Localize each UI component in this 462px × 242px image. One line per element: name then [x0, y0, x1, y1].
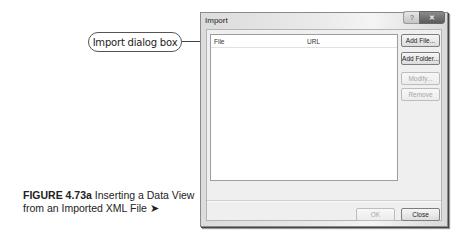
- add-file-button[interactable]: Add File...: [401, 34, 440, 47]
- column-header-url[interactable]: URL: [307, 38, 320, 45]
- arrow-icon: ➤: [150, 202, 159, 214]
- help-button[interactable]: ?: [403, 11, 420, 24]
- window-close-button[interactable]: ✕: [419, 11, 445, 24]
- dialog-body: File URL Add File... Add Folder... Modif…: [206, 29, 442, 221]
- close-button[interactable]: Close: [401, 208, 440, 221]
- close-icon: ✕: [429, 14, 435, 21]
- add-folder-button[interactable]: Add Folder...: [401, 52, 440, 65]
- import-dialog: Import ? ✕ File URL Add File... Add Fold…: [200, 12, 448, 227]
- footer-separator: [207, 200, 441, 202]
- modify-button[interactable]: Modify...: [401, 72, 440, 85]
- remove-button[interactable]: Remove: [401, 88, 440, 101]
- ok-button[interactable]: OK: [356, 208, 395, 221]
- figure-number: FIGURE 4.73a: [23, 189, 92, 201]
- callout-bubble: Import dialog box: [88, 32, 182, 52]
- dialog-title: Import: [205, 16, 228, 25]
- list-header: File URL: [211, 35, 397, 48]
- figure-caption: FIGURE 4.73a Inserting a Data View from …: [23, 189, 203, 215]
- help-icon: ?: [410, 14, 414, 21]
- title-bar[interactable]: Import ? ✕: [201, 13, 447, 29]
- import-file-list[interactable]: File URL: [210, 34, 398, 181]
- column-header-file[interactable]: File: [214, 38, 224, 45]
- callout-label: Import dialog box: [93, 37, 178, 48]
